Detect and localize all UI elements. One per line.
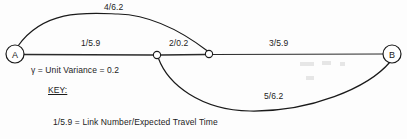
unit-variance-note: γ = Unit Variance = 0.2 xyxy=(31,65,119,75)
scan-artifact xyxy=(322,61,331,65)
scan-artifact xyxy=(300,62,314,66)
edge-label-link-3: 3/5.9 xyxy=(269,38,288,48)
node-b-label: B xyxy=(389,50,395,60)
edge-label-link-2: 2/0.2 xyxy=(169,38,188,48)
edge-link-5-arc xyxy=(159,59,391,112)
scan-artifact xyxy=(340,62,345,66)
node-a-label: A xyxy=(12,50,18,60)
edge-link-2-line xyxy=(161,55,206,56)
edge-label-link-4: 4/6.2 xyxy=(104,2,123,12)
node-junction-1-circle[interactable] xyxy=(153,51,160,58)
legend-link-notation: 1/5.9 = Link Number/Expected Travel Time xyxy=(53,117,218,127)
node-junction-2-circle[interactable] xyxy=(205,50,212,57)
scan-artifact xyxy=(306,76,314,80)
key-heading: KEY: xyxy=(48,85,67,95)
edge-label-link-1: 1/5.9 xyxy=(81,38,100,48)
diagram-canvas: A B 4/6.2 1/5.9 2/0.2 3/5.9 5/6.2 γ = Un… xyxy=(0,0,407,139)
edge-label-link-5: 5/6.2 xyxy=(264,91,283,101)
edge-link-3-line xyxy=(213,54,384,55)
edge-link-1-line xyxy=(24,55,154,56)
